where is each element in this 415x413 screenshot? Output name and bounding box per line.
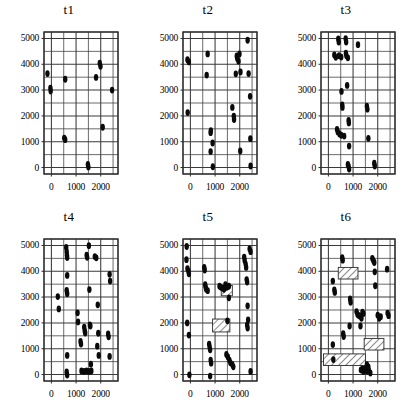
- y-tick-label: 5000: [0, 33, 39, 43]
- data-point: [358, 323, 362, 330]
- x-tick-label: 0: [188, 389, 193, 399]
- y-tick-label: 2000: [139, 318, 178, 328]
- data-point: [94, 254, 98, 261]
- data-point: [184, 256, 188, 263]
- y-tick-label: 3000: [139, 85, 178, 95]
- y-tick-label: 5000: [139, 33, 178, 43]
- y-tick-label: 3000: [277, 292, 316, 302]
- x-tick-label: 1000: [67, 389, 85, 399]
- x-tick-label: 2000: [369, 182, 387, 192]
- data-point: [89, 361, 93, 368]
- data-point: [347, 323, 351, 330]
- plot-area-t5: [139, 207, 277, 413]
- data-point: [339, 54, 343, 61]
- data-point: [347, 143, 351, 150]
- y-tick-label: 4000: [277, 59, 316, 69]
- y-tick-label: 4000: [277, 266, 316, 276]
- data-point: [366, 363, 370, 370]
- data-point: [187, 332, 191, 339]
- data-point: [345, 82, 349, 89]
- y-tick-label: 1000: [0, 137, 39, 147]
- x-tick-label: 1000: [344, 182, 362, 192]
- data-point: [234, 70, 238, 77]
- data-point: [344, 39, 348, 46]
- x-tick-label: 0: [49, 182, 54, 192]
- y-tick-label: 1000: [0, 344, 39, 354]
- plot-area-t1: [0, 0, 138, 206]
- y-tick-label: 0: [277, 163, 316, 173]
- data-point: [48, 88, 52, 95]
- data-point: [227, 283, 231, 290]
- y-tick-label: 2000: [0, 318, 39, 328]
- panel-t6: t6010002000300040005000010002000: [277, 207, 415, 413]
- data-point: [356, 41, 360, 48]
- y-tick-label: 1000: [277, 344, 316, 354]
- data-point: [347, 119, 351, 126]
- y-tick-label: 2000: [277, 318, 316, 328]
- y-tick-label: 3000: [0, 85, 39, 95]
- y-tick-label: 3000: [277, 85, 316, 95]
- data-point: [56, 293, 60, 300]
- x-tick-label: 0: [326, 182, 331, 192]
- data-point: [238, 148, 242, 155]
- data-point: [361, 310, 365, 317]
- data-point: [79, 341, 83, 348]
- x-tick-label: 2000: [231, 389, 249, 399]
- plot-area-t4: [0, 207, 138, 413]
- y-tick-label: 2000: [139, 111, 178, 121]
- x-tick-label: 2000: [369, 389, 387, 399]
- data-point: [236, 58, 240, 65]
- data-point: [248, 93, 252, 100]
- data-point: [348, 299, 352, 306]
- data-point: [378, 313, 382, 320]
- y-tick-label: 3000: [0, 292, 39, 302]
- data-point: [386, 312, 390, 319]
- y-tick-label: 0: [139, 163, 178, 173]
- data-point: [248, 248, 252, 255]
- data-point: [185, 109, 189, 116]
- data-point: [373, 268, 377, 275]
- y-tick-label: 4000: [139, 266, 178, 276]
- data-point: [331, 278, 335, 285]
- x-tick-label: 0: [49, 389, 54, 399]
- data-point: [331, 341, 335, 348]
- data-point: [208, 346, 212, 353]
- data-point: [245, 279, 249, 286]
- panel-t4: t4010002000300040005000010002000: [0, 207, 138, 413]
- data-point: [110, 87, 114, 94]
- data-point: [385, 266, 389, 273]
- y-tick-label: 4000: [139, 59, 178, 69]
- data-point: [341, 333, 345, 340]
- data-point: [210, 140, 214, 147]
- data-point: [331, 356, 335, 363]
- data-point: [333, 289, 337, 296]
- data-point: [65, 254, 69, 261]
- panel-t2: t2010002000300040005000010002000: [139, 0, 277, 206]
- data-point: [65, 352, 69, 359]
- data-point: [347, 166, 351, 173]
- data-point: [244, 264, 248, 271]
- data-point: [340, 104, 344, 111]
- y-tick-label: 2000: [277, 111, 316, 121]
- data-point: [96, 330, 100, 337]
- panel-t1: t1010002000300040005000010002000: [0, 0, 138, 206]
- y-tick-label: 2000: [0, 111, 39, 121]
- data-point: [185, 243, 189, 250]
- y-tick-label: 0: [139, 370, 178, 380]
- data-point: [76, 318, 80, 325]
- x-tick-label: 2000: [231, 182, 249, 192]
- data-point: [245, 37, 249, 44]
- data-point: [341, 257, 345, 264]
- data-point: [86, 164, 90, 171]
- y-tick-label: 3000: [139, 292, 178, 302]
- data-point: [107, 271, 111, 278]
- data-point: [232, 116, 236, 123]
- data-point: [88, 323, 92, 330]
- x-tick-label: 0: [326, 389, 331, 399]
- data-point: [346, 54, 350, 61]
- data-point: [342, 133, 346, 140]
- data-point: [94, 74, 98, 81]
- y-tick-label: 0: [0, 163, 39, 173]
- data-point: [187, 371, 191, 378]
- data-point: [208, 148, 212, 155]
